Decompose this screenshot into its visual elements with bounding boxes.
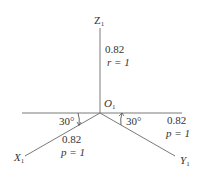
- x-axis-label: X1: [13, 151, 25, 165]
- x-axis-coefficient: p = 1: [60, 146, 85, 158]
- left-angle-arc-icon: [78, 113, 79, 125]
- z-axis-label: Z1: [94, 14, 105, 28]
- axonometric-axes-diagram: Z1 0.82 r = 1 O1 30° 30° 0.82 p = 1 0.82…: [0, 0, 199, 174]
- y-axis-coefficient: p = 1: [165, 127, 190, 139]
- origin-label: O1: [104, 97, 116, 111]
- left-angle-label: 30°: [59, 115, 74, 127]
- z-axis-coefficient: r = 1: [107, 56, 130, 68]
- z-axis-scale: 0.82: [105, 43, 124, 55]
- y-axis-scale: 0.82: [167, 114, 186, 126]
- x-axis-scale: 0.82: [62, 133, 81, 145]
- right-angle-label: 30°: [126, 115, 141, 127]
- y-axis-label: Y1: [180, 154, 190, 168]
- right-angle-arc-icon: [121, 113, 122, 125]
